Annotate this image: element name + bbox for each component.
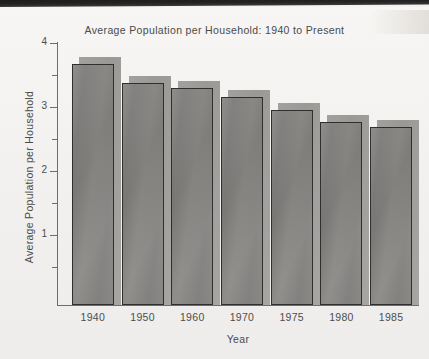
y-tick-label-1: 1: [25, 228, 47, 239]
bar-chart: Average Population per Household: 1940 t…: [0, 0, 429, 359]
bar-front-1950: [122, 83, 164, 305]
x-tick-label-1970: 1970: [217, 311, 267, 323]
bar-front-1960: [171, 88, 213, 305]
y-minor-tick-0.5: [52, 267, 58, 268]
y-tick-label-4: 4: [25, 36, 47, 47]
y-tick-4: [50, 43, 58, 44]
y-tick-2: [50, 171, 58, 172]
y-tick-1: [50, 235, 58, 236]
y-tick-3: [50, 107, 58, 108]
y-minor-tick-1.5: [52, 203, 58, 204]
bar-front-1940: [72, 64, 114, 305]
x-tick-label-1980: 1980: [317, 311, 367, 323]
bar-front-1975: [271, 110, 313, 305]
x-tick-label-1940: 1940: [68, 311, 118, 323]
x-tick-label-1950: 1950: [118, 311, 168, 323]
bar-front-1985: [370, 127, 412, 305]
bar-front-1980: [320, 122, 362, 305]
y-minor-tick-3.5: [52, 75, 58, 76]
y-tick-label-2: 2: [25, 164, 47, 175]
x-tick-label-1975: 1975: [267, 311, 317, 323]
y-minor-tick-2.5: [52, 139, 58, 140]
x-axis-line: [57, 305, 419, 306]
x-tick-label-1960: 1960: [167, 311, 217, 323]
chart-title: Average Population per Household: 1940 t…: [0, 24, 429, 36]
bar-front-1970: [221, 97, 263, 305]
x-axis-title: Year: [57, 333, 419, 345]
x-tick-label-1985: 1985: [366, 311, 416, 323]
y-tick-label-3: 3: [25, 100, 47, 111]
